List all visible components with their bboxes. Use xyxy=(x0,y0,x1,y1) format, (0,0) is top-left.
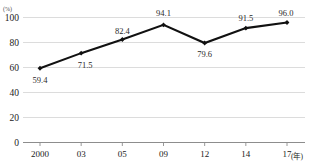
x-axis-tick-label: 03 xyxy=(77,149,87,159)
x-axis-tick-label: 12 xyxy=(200,149,209,159)
data-point-label: 94.1 xyxy=(156,8,171,18)
line-chart: 020406080100 (%) 2000030509121417 (年) 59… xyxy=(0,0,312,167)
y-axis-tick-label: 0 xyxy=(14,138,19,148)
y-axis-unit-label: (%) xyxy=(3,6,12,13)
y-axis-tick-label: 100 xyxy=(5,13,20,23)
x-axis-unit-label: (年) xyxy=(291,151,303,161)
data-point-label: 59.4 xyxy=(33,75,49,85)
x-axis-tick-label: 09 xyxy=(159,149,169,159)
x-axis-tick-label: 2000 xyxy=(31,149,50,159)
data-point-label: 91.5 xyxy=(238,13,253,23)
x-axis-tick-label: 05 xyxy=(118,149,128,159)
data-point-label: 96.0 xyxy=(279,8,294,18)
y-axis-tick-label: 40 xyxy=(10,88,20,98)
data-point-label: 79.6 xyxy=(197,49,212,59)
chart-canvas: 020406080100 (%) 2000030509121417 (年) 59… xyxy=(0,0,312,167)
y-axis-tick-label: 20 xyxy=(10,113,20,123)
y-axis-tick-label: 60 xyxy=(10,63,20,73)
x-axis-tick-label: 14 xyxy=(241,149,251,159)
y-axis-tick-label: 80 xyxy=(10,38,20,48)
data-point-label: 71.5 xyxy=(78,60,93,70)
data-point-label: 82.4 xyxy=(115,26,131,36)
